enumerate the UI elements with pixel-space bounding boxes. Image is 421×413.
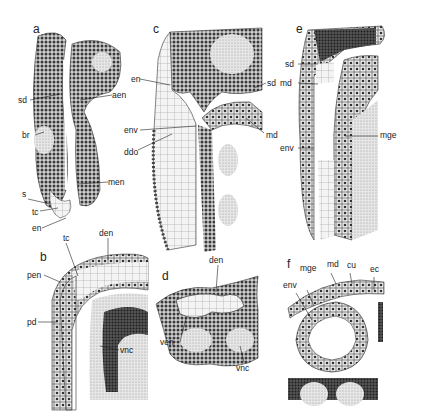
label-mge-f: mge [300, 264, 317, 273]
label-s: s [22, 190, 26, 199]
label-en: en [32, 224, 41, 233]
label-env-c: env [124, 126, 138, 135]
label-env-e: env [280, 144, 294, 153]
panel-letter-f: f [287, 258, 290, 270]
label-md-f: md [327, 260, 339, 269]
label-pd: pd [27, 318, 36, 327]
panel-d-drawing [156, 276, 258, 366]
label-aen: aen [112, 91, 126, 100]
panel-c-drawing [153, 28, 262, 252]
panel-letter-d: d [162, 270, 169, 282]
label-pen: pen [27, 271, 41, 280]
panel-letter-b: b [40, 251, 47, 263]
label-ddo: ddo [124, 148, 138, 157]
figure-plate: a sd aen br men s tc en b tc den pen pd … [0, 0, 421, 413]
label-md-e: md [280, 79, 292, 88]
panel-letter-c: c [153, 23, 159, 35]
label-sd-e: sd [285, 60, 294, 69]
label-mge-e: mge [380, 131, 397, 140]
label-vnc-d: vnc [236, 364, 249, 373]
panel-e-drawing [299, 26, 385, 240]
label-men: men [108, 178, 125, 187]
label-tc: tc [32, 208, 39, 217]
label-env-f: env [283, 281, 297, 290]
label-cu: cu [347, 261, 356, 270]
label-ven: ven [160, 338, 174, 347]
figure-drawings [0, 0, 421, 413]
label-md-c: md [266, 131, 278, 140]
panel-f-drawing [288, 280, 384, 406]
label-den: den [99, 229, 113, 238]
label-sd-c: sd [267, 79, 276, 88]
label-sd: sd [18, 96, 27, 105]
label-en-c: en [131, 75, 140, 84]
panel-letter-a: a [33, 23, 40, 35]
label-den-d: den [209, 256, 223, 265]
label-vnc-b: vnc [120, 346, 133, 355]
label-ec: ec [370, 265, 379, 274]
label-tc-b: tc [63, 234, 70, 243]
panel-b-drawing [52, 254, 148, 410]
panel-letter-e: e [296, 23, 303, 35]
label-br: br [22, 131, 30, 140]
panel-a-drawing [33, 33, 120, 218]
